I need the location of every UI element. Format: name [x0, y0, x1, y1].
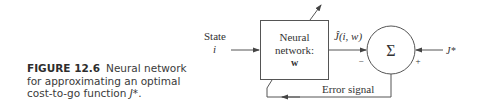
block-label-network: network:	[275, 44, 314, 56]
target-label-j-star: J*	[446, 45, 455, 56]
input-label-i: i	[213, 43, 216, 55]
block-label-weights: w	[291, 57, 299, 68]
adaptive-weights-arrow	[310, 5, 321, 20]
error-feedback-entry	[267, 80, 272, 97]
input-label-state: State	[204, 30, 226, 42]
block-label-neural: Neural	[280, 31, 310, 43]
output-label-j-hat: Ĵ(i, w)	[334, 30, 362, 43]
sigma-symbol: Σ	[386, 42, 395, 59]
neural-network-diagram: State i Neural network: w Ĵ(i, w) Σ − + …	[0, 0, 479, 111]
error-signal-label: Error signal	[322, 83, 374, 95]
figure-canvas: FIGURE 12.6Neural network for approximat…	[0, 0, 479, 111]
minus-sign: −	[358, 56, 363, 66]
plus-sign: +	[415, 56, 420, 66]
